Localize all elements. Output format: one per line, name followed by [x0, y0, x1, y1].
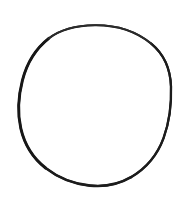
drawing-surface	[0, 0, 194, 197]
paper-background	[0, 0, 194, 197]
drawing-canvas	[0, 0, 194, 197]
